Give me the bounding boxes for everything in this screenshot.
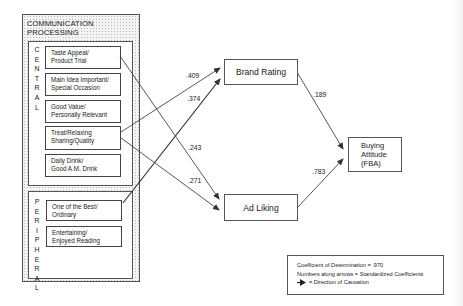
coef-189: .189 — [313, 91, 326, 98]
node-buying-attitude: Buying Attitude (FBA) — [348, 137, 402, 172]
legend-determination: Coefficient of Determination = .970 — [297, 261, 443, 270]
coef-783: .783 — [312, 168, 325, 175]
legend-numbers: Numbers along arrows = Standardized Coef… — [297, 270, 443, 279]
node-brand-rating: Brand Rating — [224, 59, 298, 85]
arrow-adliking-to-fba — [297, 159, 343, 208]
causation-arrow-icon — [297, 279, 306, 286]
arrow-best-to-brand — [123, 79, 220, 203]
legend-direction-text: = Direction of Causation — [309, 278, 369, 287]
coef-271: .271 — [188, 177, 201, 184]
arrow-treat-to-brand — [121, 68, 220, 132]
coef-409: .409 — [186, 72, 199, 79]
coef-243: .243 — [188, 144, 201, 151]
arrow-brand-to-fba — [297, 72, 343, 149]
arrow-treat-to-adliking — [121, 138, 219, 210]
legend-direction: = Direction of Causation — [297, 278, 443, 287]
legend-box: Coefficient of Determination = .970 Numb… — [287, 255, 444, 295]
coef-374: .374 — [187, 95, 200, 102]
node-ad-liking: Ad Liking — [224, 194, 298, 221]
arrow-taste-to-adliking — [120, 56, 219, 199]
